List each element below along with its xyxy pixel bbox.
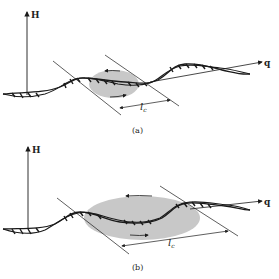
panel-caption-b: (b): [132, 263, 143, 272]
panel-a: H q: [3, 10, 271, 135]
panel-caption-a: (a): [132, 126, 143, 135]
figure: H q: [0, 0, 279, 279]
h-axis-label: H: [32, 145, 41, 155]
panel-b: H q: [3, 145, 271, 272]
circulation-arrow-top: [126, 196, 152, 197]
diagram-canvas: H q: [0, 0, 279, 279]
length-label: lc: [140, 101, 147, 113]
q-axis-label: q: [264, 58, 271, 68]
q-axis-label: q: [264, 197, 271, 207]
h-axis-label: H: [31, 10, 40, 20]
coherence-ellipse: [84, 196, 200, 240]
